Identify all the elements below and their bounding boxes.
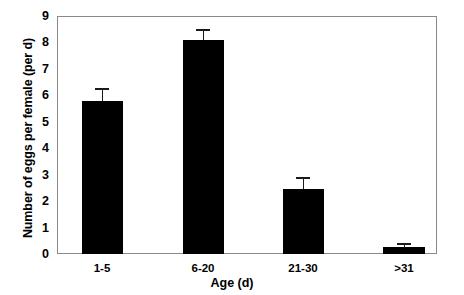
x-axis-title: Age (d) <box>0 276 464 290</box>
x-tick-label-6-20: 6-20 <box>191 262 214 274</box>
error-bar-stem-6-20 <box>203 29 205 40</box>
error-bar-cap-over-31 <box>397 243 411 245</box>
y-tick-label-1: 1 <box>0 222 49 235</box>
bar-chart-figure: Number of eggs per female (per d) 9 8 7 … <box>0 0 464 295</box>
bar-21-30 <box>283 189 324 254</box>
x-tick-label-over-31: >31 <box>394 262 414 274</box>
y-tick-label-0: 0 <box>0 248 49 261</box>
y-tick-label-7: 7 <box>0 63 49 76</box>
error-bar-cap-6-20 <box>196 29 210 31</box>
y-tick-label-8: 8 <box>0 36 49 49</box>
y-tick-label-2: 2 <box>0 195 49 208</box>
error-bar-stem-1-5 <box>102 88 104 101</box>
y-tick-label-9: 9 <box>0 10 49 23</box>
error-bar-cap-21-30 <box>296 177 310 179</box>
y-tick-label-5: 5 <box>0 116 49 129</box>
bar-over-31 <box>383 247 425 254</box>
y-tick-label-3: 3 <box>0 169 49 182</box>
x-tick-label-1-5: 1-5 <box>94 262 111 274</box>
y-tick-label-4: 4 <box>0 142 49 155</box>
bar-1-5 <box>82 101 123 254</box>
error-bar-stem-21-30 <box>303 177 305 189</box>
y-tick-label-6: 6 <box>0 89 49 102</box>
x-tick-label-21-30: 21-30 <box>288 262 317 274</box>
bar-6-20 <box>183 40 224 254</box>
error-bar-cap-1-5 <box>95 88 109 90</box>
